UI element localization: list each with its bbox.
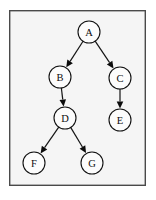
node-g[interactable]: G [81,152,103,174]
node-d-circle[interactable] [54,107,76,129]
node-c-circle[interactable] [109,67,131,89]
node-f-circle[interactable] [23,152,45,174]
node-f[interactable]: F [23,152,45,174]
node-e-circle[interactable] [109,109,131,131]
node-g-circle[interactable] [81,152,103,174]
node-b-circle[interactable] [49,66,71,88]
node-a-circle[interactable] [78,21,100,43]
tree-diagram: ABCDEFG [0,0,156,200]
node-d[interactable]: D [54,107,76,129]
node-c[interactable]: C [109,67,131,89]
node-e[interactable]: E [109,109,131,131]
node-a[interactable]: A [78,21,100,43]
node-b[interactable]: B [49,66,71,88]
figure-root: ABCDEFG [0,0,156,200]
